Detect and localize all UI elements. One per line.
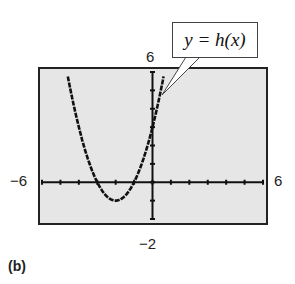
x-min-label: −6	[10, 173, 27, 188]
x-max-label: 6	[274, 173, 282, 188]
y-max-label: 6	[146, 49, 154, 64]
callout-text: y = h(x)	[184, 29, 245, 51]
callout-pointer	[162, 57, 200, 95]
panel-label: (b)	[8, 258, 26, 274]
y-min-label: −2	[139, 236, 156, 251]
function-callout: y = h(x)	[172, 22, 258, 58]
